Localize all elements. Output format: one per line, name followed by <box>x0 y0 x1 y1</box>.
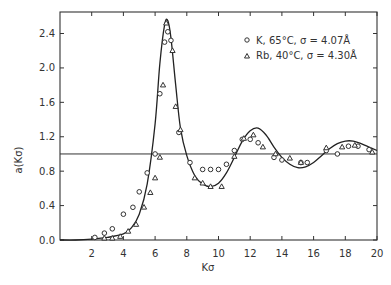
circle-marker-icon <box>137 190 142 195</box>
triangle-marker-icon <box>287 155 292 160</box>
circle-marker-icon <box>188 160 193 165</box>
circle-marker-icon <box>232 148 237 153</box>
circle-marker-icon <box>121 212 126 217</box>
x-tick-label: 8 <box>184 248 190 259</box>
triangle-marker-icon <box>324 145 329 150</box>
y-tick-label: 1.6 <box>39 97 55 108</box>
triangle-marker-icon <box>260 144 265 149</box>
legend-label-k: K, 65°C, σ = 4.07Å <box>256 34 350 46</box>
triangle-marker-icon <box>208 184 213 189</box>
legend: K, 65°C, σ = 4.07Å Rb, 40°C, σ = 4.30Å <box>245 34 358 61</box>
circle-marker-icon <box>335 152 340 157</box>
triangle-marker-icon <box>340 144 345 149</box>
triangle-marker-icon <box>251 132 256 137</box>
x-tick-label: 14 <box>276 248 289 259</box>
circle-marker-icon <box>145 171 150 176</box>
x-axis-label: Kσ <box>202 262 216 273</box>
x-tick-label: 18 <box>339 248 352 259</box>
y-axis-label: a(Kσ) <box>13 146 24 173</box>
circle-marker-icon <box>256 140 261 145</box>
x-tick-label: 2 <box>89 248 95 259</box>
triangle-marker-icon <box>160 82 165 87</box>
x-tick-label: 16 <box>307 248 320 259</box>
circle-marker-icon <box>305 160 310 165</box>
circle-marker-icon <box>93 235 98 240</box>
x-tick-label: 10 <box>212 248 225 259</box>
circle-marker-icon <box>346 144 351 149</box>
y-tick-label: 2.4 <box>39 28 55 39</box>
circle-marker-icon <box>200 167 205 172</box>
circle-marker-icon <box>169 38 174 43</box>
chart-canvas: 24681012141618200.00.40.81.21.62.02.4 K,… <box>0 0 391 285</box>
y-tick-label: 0.4 <box>39 200 55 211</box>
circle-marker-icon <box>165 29 170 34</box>
circle-marker-icon <box>153 152 158 157</box>
y-tick-label: 1.2 <box>39 131 55 142</box>
circle-marker-icon <box>110 227 115 232</box>
series-k-points <box>93 29 372 239</box>
triangle-marker-icon <box>153 175 158 180</box>
circle-marker-icon <box>158 91 163 96</box>
triangle-marker-icon <box>178 127 183 132</box>
plot-border <box>60 12 377 240</box>
circle-marker-icon <box>248 137 253 142</box>
triangle-marker-icon <box>170 48 175 53</box>
circle-marker-icon <box>280 158 285 163</box>
circle-marker-icon <box>131 205 136 210</box>
y-tick-label: 0.8 <box>39 166 55 177</box>
triangle-marker-icon <box>192 175 197 180</box>
triangle-marker-icon <box>157 155 162 160</box>
legend-label-rb: Rb, 40°C, σ = 4.30Å <box>256 49 357 61</box>
y-tick-label: 0.0 <box>39 235 55 246</box>
triangle-marker-icon <box>133 222 138 227</box>
triangle-marker-icon <box>219 184 224 189</box>
triangle-marker-icon <box>352 143 357 148</box>
y-tick-label: 2.0 <box>39 62 55 73</box>
triangle-marker-icon <box>102 235 107 240</box>
x-tick-label: 12 <box>244 248 257 259</box>
legend-circle-marker-icon <box>245 38 249 42</box>
x-tick-label: 20 <box>371 248 384 259</box>
x-tick-label: 6 <box>152 248 158 259</box>
plot-frame <box>60 12 377 240</box>
triangle-marker-icon <box>148 190 153 195</box>
circle-marker-icon <box>208 167 213 172</box>
triangle-marker-icon <box>200 180 205 185</box>
x-tick-label: 4 <box>120 248 126 259</box>
circle-marker-icon <box>224 162 229 167</box>
circle-marker-icon <box>216 167 221 172</box>
legend-triangle-marker-icon <box>245 54 250 59</box>
circle-marker-icon <box>162 40 167 45</box>
